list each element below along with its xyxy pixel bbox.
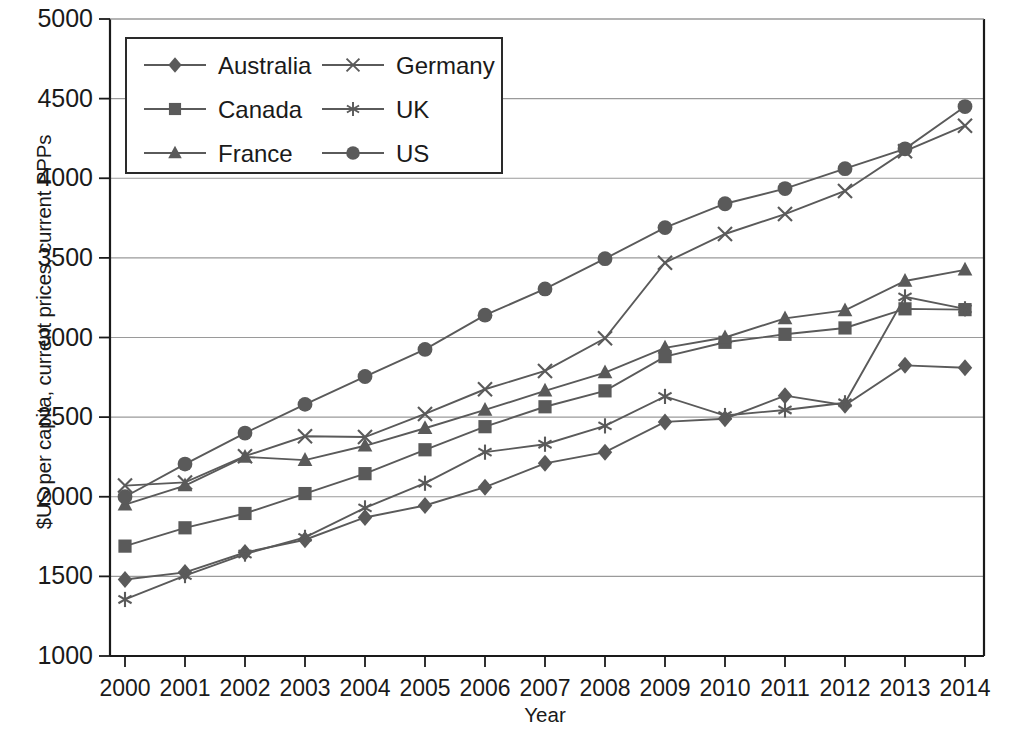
data-point-marker [958,119,972,133]
data-point-marker [478,420,491,433]
x-tick-label: 2011 [760,675,809,701]
data-point-marker [358,369,373,384]
series-france [118,262,973,511]
x-tick-label: 2007 [519,675,570,701]
data-point-marker [178,457,193,472]
data-point-marker [778,181,793,196]
x-tick-label: 2003 [279,675,330,701]
data-point-marker [118,489,133,504]
data-point-marker [838,161,853,176]
x-axis-title: Year [120,703,970,727]
data-point-marker [838,321,851,334]
data-point-marker [958,99,973,114]
data-point-marker [169,103,181,115]
data-point-marker [418,407,432,421]
data-point-marker [418,476,431,491]
data-point-marker [418,342,433,357]
data-point-marker [778,207,792,221]
data-point-marker [838,184,852,198]
data-point-marker [658,413,672,430]
data-point-marker [298,487,311,500]
data-point-marker [598,251,613,266]
chart-legend: AustraliaGermanyCanadaUKFranceUS [126,38,502,173]
data-point-marker [838,302,853,316]
data-series-layer [118,99,973,607]
legend-label: UK [396,96,429,123]
x-tick-label: 2006 [459,675,510,701]
data-point-marker [658,220,673,235]
x-tick-label: 2008 [579,675,630,701]
data-point-marker [118,540,131,553]
data-point-marker [538,364,552,378]
legend-label: France [218,140,293,167]
y-tick-label: 1000 [37,641,93,669]
data-point-marker [718,196,733,211]
data-point-marker [238,507,251,520]
data-point-marker [418,443,431,456]
data-point-marker [958,359,972,376]
legend-label: Germany [396,52,495,79]
x-tick-label: 2010 [699,675,750,701]
data-point-marker [898,357,912,374]
x-tick-label: 2001 [159,675,210,701]
data-point-marker [958,262,973,276]
data-point-marker [598,444,612,461]
x-tick-label: 2004 [339,675,390,701]
data-point-marker [598,384,611,397]
x-tick-label: 2012 [819,675,870,701]
data-point-marker [346,146,360,160]
data-point-marker [898,141,913,156]
plot-area: 100015002000250030003500400045005000 200… [0,0,1019,742]
data-point-marker [718,227,732,241]
x-tick-label: 2000 [99,675,150,701]
y-axis-title: $US per capita, current prices, current … [32,52,56,612]
data-point-marker [538,282,553,297]
data-point-marker [178,521,191,534]
data-point-marker [118,571,132,588]
legend-label: US [396,140,429,167]
y-tick-label: 5000 [37,4,93,32]
data-point-marker [598,331,612,345]
data-point-marker [778,387,792,404]
legend-label: Australia [218,52,312,79]
x-tick-label: 2013 [879,675,930,701]
data-point-marker [298,397,313,412]
data-point-marker [598,418,611,433]
data-point-marker [478,382,492,396]
data-point-marker [238,426,253,441]
x-tick-label: 2014 [939,675,990,701]
data-point-marker [478,308,493,323]
legend-label: Canada [218,96,303,123]
x-tick-label: 2005 [399,675,450,701]
x-axis-ticks: 2000200120022003200420052006200720082009… [99,656,990,701]
x-tick-label: 2002 [219,675,270,701]
line-chart: 100015002000250030003500400045005000 200… [0,0,1019,742]
data-point-marker [118,592,131,607]
data-point-marker [658,389,671,404]
data-point-marker [418,497,432,514]
data-point-marker [538,455,552,472]
data-point-marker [358,467,371,480]
x-tick-label: 2009 [639,675,690,701]
data-point-marker [538,400,551,413]
data-point-marker [478,479,492,496]
data-point-marker [358,500,371,515]
data-point-marker [778,328,791,341]
